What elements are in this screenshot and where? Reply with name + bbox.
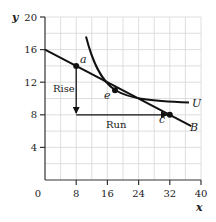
x-tick-24: 24 bbox=[132, 188, 145, 199]
x-axis-title: x bbox=[195, 201, 203, 214]
indifference-curve-u bbox=[86, 37, 189, 103]
y-axis-title: y bbox=[11, 11, 20, 24]
y-tick-4: 4 bbox=[31, 142, 37, 153]
axes bbox=[40, 17, 201, 185]
point-e bbox=[112, 87, 118, 93]
x-tick-16: 16 bbox=[101, 188, 114, 199]
label-u: U bbox=[192, 97, 202, 110]
x-tick-labels: 0 8 16 24 32 40 bbox=[35, 188, 208, 199]
label-e: e bbox=[104, 89, 111, 102]
label-a: a bbox=[80, 53, 87, 66]
origin-label: 0 bbox=[35, 188, 41, 199]
x-tick-40: 40 bbox=[195, 188, 208, 199]
rise-label: Rise bbox=[53, 83, 75, 94]
grid bbox=[45, 17, 201, 180]
label-c: c bbox=[159, 113, 165, 126]
y-tick-16: 16 bbox=[24, 44, 37, 55]
chart-canvas: 20 16 12 8 4 0 8 16 24 32 40 y x a e c U… bbox=[0, 0, 216, 222]
run-label: Run bbox=[106, 119, 127, 130]
y-tick-20: 20 bbox=[24, 12, 37, 23]
y-tick-8: 8 bbox=[31, 109, 37, 120]
point-a bbox=[73, 63, 79, 69]
y-tick-labels: 20 16 12 8 4 bbox=[24, 12, 37, 153]
point-c bbox=[167, 112, 173, 118]
label-b: B bbox=[189, 121, 198, 134]
x-tick-8: 8 bbox=[73, 188, 79, 199]
x-tick-32: 32 bbox=[163, 188, 176, 199]
y-tick-12: 12 bbox=[24, 77, 37, 88]
